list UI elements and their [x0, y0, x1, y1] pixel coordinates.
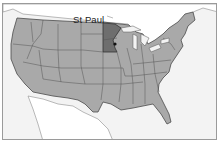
city-label: St Paul	[73, 14, 104, 25]
map-frame: St Paul	[2, 3, 217, 140]
city-dot-st-paul	[113, 42, 116, 45]
us-map	[3, 4, 217, 140]
